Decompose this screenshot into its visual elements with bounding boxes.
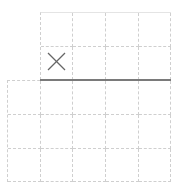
x-mark-icon xyxy=(47,52,66,71)
grid-cell[interactable] xyxy=(8,149,41,182)
grid-cell[interactable] xyxy=(139,13,171,47)
grid-cell[interactable] xyxy=(41,13,73,47)
grid-cell[interactable] xyxy=(73,47,106,80)
grid-cell[interactable] xyxy=(8,115,41,149)
grid-cell[interactable] xyxy=(41,149,73,182)
grid-cell[interactable] xyxy=(8,81,41,115)
grid-cell[interactable] xyxy=(73,149,106,182)
separator-line xyxy=(40,79,171,81)
grid-cell[interactable] xyxy=(106,149,139,182)
grid-cell[interactable] xyxy=(106,47,139,80)
grid-cell[interactable] xyxy=(106,81,139,115)
grid-cell[interactable] xyxy=(139,149,171,182)
grid-cell[interactable] xyxy=(41,81,73,115)
grid-cell[interactable] xyxy=(73,13,106,47)
grid-cell[interactable] xyxy=(73,81,106,115)
grid-cell[interactable] xyxy=(73,115,106,149)
grid-cell[interactable] xyxy=(106,115,139,149)
grid-cell[interactable] xyxy=(139,81,171,115)
grid-cell[interactable] xyxy=(139,47,171,80)
bottom-grid-region xyxy=(7,80,171,182)
grid-cell[interactable] xyxy=(41,115,73,149)
grid-cell[interactable] xyxy=(106,13,139,47)
grid-cell[interactable] xyxy=(139,115,171,149)
